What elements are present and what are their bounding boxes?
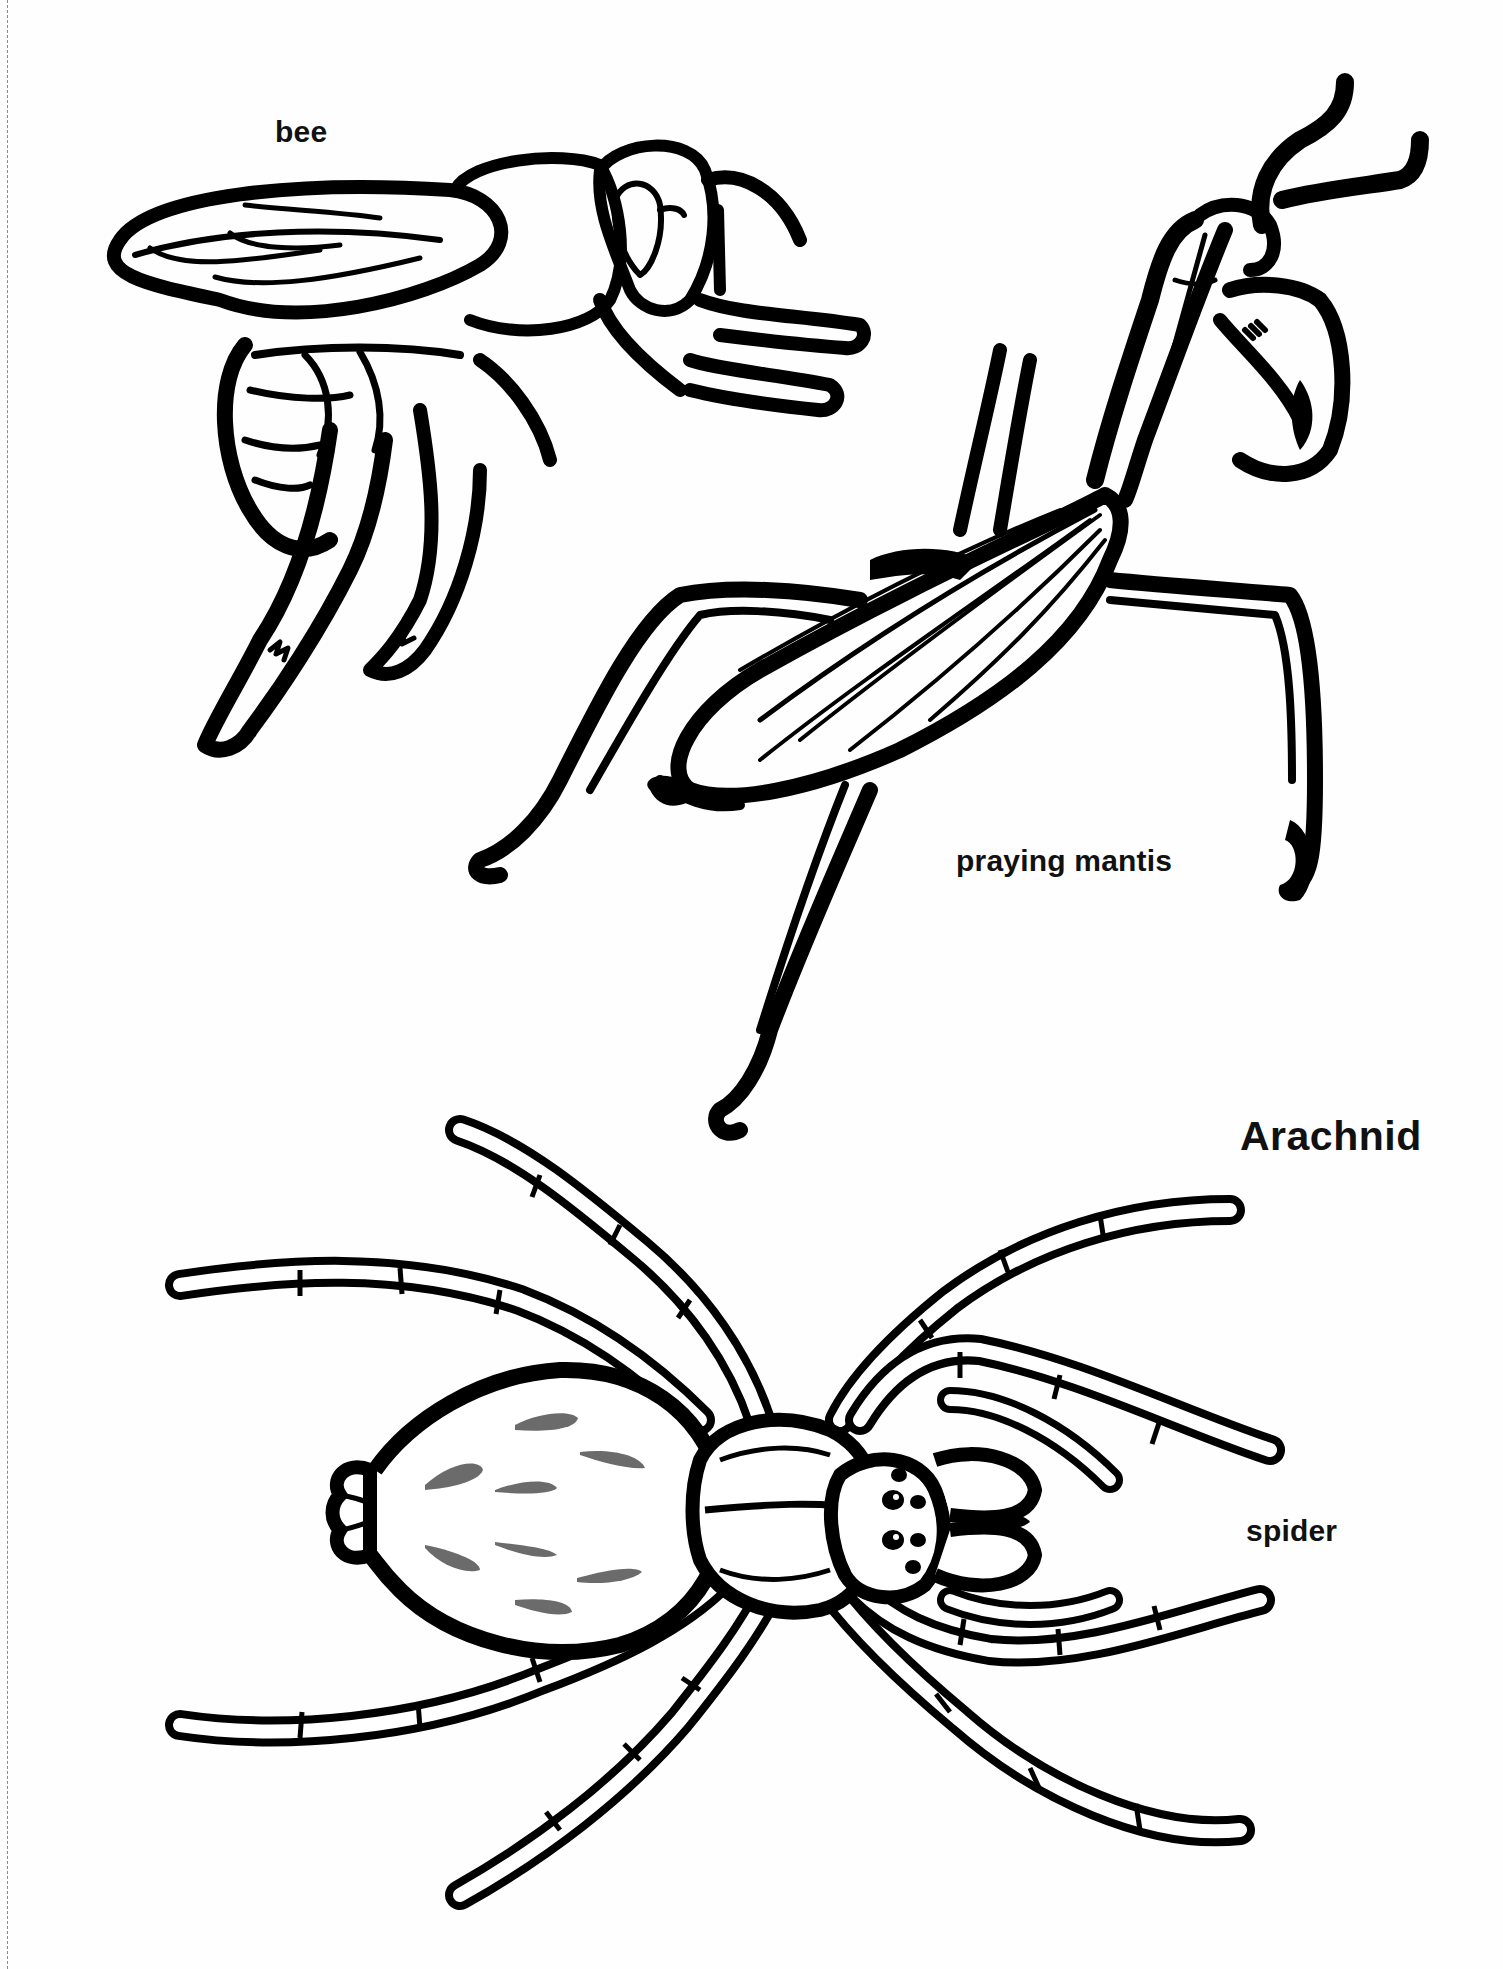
coloring-page: bee praying mantis Arachnid spider: [0, 0, 1503, 1969]
arachnid-heading: Arachnid: [1240, 1116, 1422, 1157]
bee-label: bee: [275, 117, 327, 147]
spider-label: spider: [1246, 1516, 1337, 1546]
spider-illustration: [180, 1130, 1270, 1895]
praying-mantis-label: praying mantis: [956, 846, 1172, 876]
bee-illustration: [114, 146, 864, 750]
illustrations: [0, 0, 1503, 1969]
